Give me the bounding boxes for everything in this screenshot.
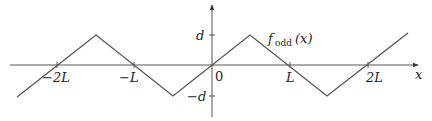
x-label-neg-2L: −2L	[42, 70, 70, 85]
x-label-origin: 0	[215, 69, 223, 84]
function-label: f odd (x)	[267, 31, 312, 48]
x-label-neg-L: −L	[119, 70, 139, 85]
function-label-main: f	[267, 31, 275, 46]
x-axis-label: x	[415, 67, 423, 82]
function-label-subscript: odd	[275, 38, 292, 48]
function-label-arg: (x)	[295, 31, 312, 46]
y-label-d: d	[196, 28, 204, 43]
odd-function-diagram: d −d −2L −L 0 L 2L x f odd (x)	[0, 0, 432, 121]
y-label-neg-d: −d	[187, 89, 206, 104]
x-label-2L: 2L	[365, 70, 383, 85]
x-label-L: L	[285, 70, 295, 85]
